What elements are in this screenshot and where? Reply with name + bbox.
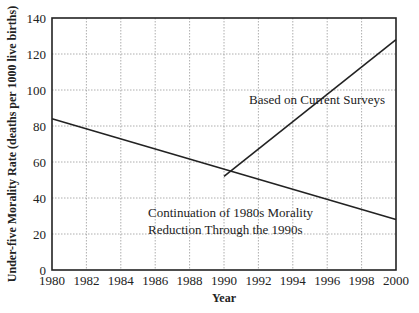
x-tick-label: 1984 bbox=[108, 273, 135, 288]
x-tick-label: 1992 bbox=[245, 273, 271, 288]
annotation-continuation-line1: Continuation of 1980s Morality bbox=[148, 205, 314, 220]
y-tick-label: 80 bbox=[33, 119, 46, 134]
y-tick-label: 40 bbox=[33, 191, 46, 206]
y-tick-label: 120 bbox=[27, 47, 47, 62]
y-axis-ticks: 020406080100120140 bbox=[27, 11, 47, 278]
series-line-1 bbox=[224, 40, 396, 177]
y-tick-label: 20 bbox=[33, 227, 46, 242]
x-tick-label: 1986 bbox=[142, 273, 169, 288]
x-tick-label: 1994 bbox=[280, 273, 307, 288]
x-tick-label: 1982 bbox=[73, 273, 99, 288]
line-chart: 1980198219841986198819901992199419961998… bbox=[0, 0, 419, 313]
x-tick-label: 1988 bbox=[177, 273, 203, 288]
x-tick-label: 2000 bbox=[383, 273, 409, 288]
x-tick-label: 1990 bbox=[211, 273, 237, 288]
y-tick-label: 0 bbox=[40, 263, 47, 278]
x-tick-label: 1996 bbox=[314, 273, 341, 288]
y-tick-label: 60 bbox=[33, 155, 46, 170]
annotation-continuation-line2: Reduction Through the 1990s bbox=[148, 222, 303, 237]
x-axis-title: Year bbox=[212, 291, 237, 305]
annotation-current-surveys: Based on Current Surveys bbox=[249, 92, 385, 107]
y-tick-label: 140 bbox=[27, 11, 47, 26]
y-axis-title: Under-five Morality Rate (deaths per 100… bbox=[5, 6, 19, 282]
x-axis-ticks: 1980198219841986198819901992199419961998… bbox=[39, 273, 409, 288]
x-tick-label: 1998 bbox=[349, 273, 375, 288]
y-tick-label: 100 bbox=[27, 83, 47, 98]
